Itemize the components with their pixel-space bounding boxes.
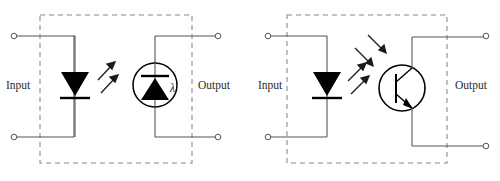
diagram-phototransistor-optocoupler: Input Output (258, 15, 489, 163)
terminal-output-top[interactable] (483, 33, 489, 39)
led-symbol (312, 36, 342, 137)
light-arrows (98, 62, 118, 93)
diagram-photodiode-optocoupler: λ Input Output (6, 15, 231, 163)
input-label: Input (6, 79, 31, 92)
light-arrow-2 (101, 75, 118, 93)
wavelength-lambda-label: λ (169, 82, 175, 94)
transistor-circle (379, 65, 425, 111)
output-label: Output (455, 79, 488, 92)
terminal-input-top[interactable] (265, 33, 271, 39)
terminal-output-top[interactable] (215, 33, 221, 39)
output-label: Output (198, 79, 231, 92)
terminal-output-bottom[interactable] (483, 143, 489, 149)
input-label: Input (258, 79, 283, 92)
photodiode-symbol: λ (133, 36, 177, 137)
terminal-input-bottom[interactable] (265, 134, 271, 140)
led-symbol (60, 36, 90, 137)
terminal-output-bottom[interactable] (215, 134, 221, 140)
figure-canvas: λ Input Output (0, 0, 500, 181)
light-arrow-2 (351, 76, 369, 94)
terminal-input-top[interactable] (11, 33, 17, 39)
light-arrow-4 (368, 35, 386, 53)
terminal-input-bottom[interactable] (11, 134, 17, 140)
optocoupler-figure: λ Input Output (0, 0, 500, 181)
